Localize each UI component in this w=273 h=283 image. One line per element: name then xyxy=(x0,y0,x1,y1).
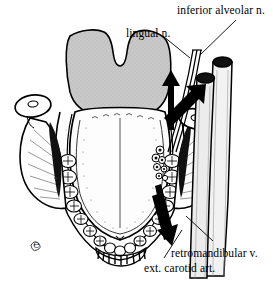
illustration-canvas: ℮ inferior alveolar n. lingual n. retrom… xyxy=(0,0,273,283)
label-inferior-alveolar-nerve: inferior alveolar n. xyxy=(177,4,265,16)
label-lingual-nerve: lingual n. xyxy=(126,27,170,39)
anatomy-drawing: ℮ xyxy=(0,0,273,283)
label-external-carotid-artery: ext. carotid art. xyxy=(144,262,215,274)
artist-monogram: ℮ xyxy=(31,238,40,250)
label-retromandibular-vein: retromandibular v. xyxy=(171,247,258,259)
